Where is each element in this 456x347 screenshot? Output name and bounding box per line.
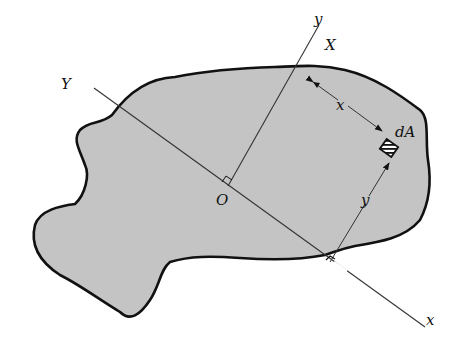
label-dim-x: x bbox=[336, 96, 345, 114]
label-y-axis: y bbox=[313, 10, 323, 28]
label-dA: dA bbox=[395, 123, 416, 141]
area-shape bbox=[34, 66, 430, 317]
label-x-axis: x bbox=[426, 311, 435, 329]
area-diagram: y X Y x O dA x y bbox=[0, 0, 456, 347]
label-Y-axis: Y bbox=[61, 75, 73, 93]
label-dim-y: y bbox=[360, 191, 370, 209]
label-X-axis: X bbox=[324, 36, 337, 54]
label-origin: O bbox=[216, 191, 228, 209]
